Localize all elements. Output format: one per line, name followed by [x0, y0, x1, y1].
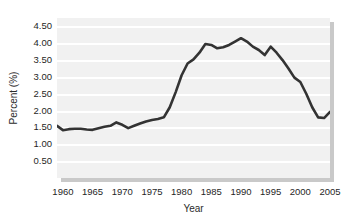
y-axis-tick-label: 2.50 — [18, 89, 52, 99]
chart-screenshot: Percent (%) 0.501.001.502.002.503.003.50… — [0, 0, 353, 223]
y-axis-tick-label: 4.50 — [18, 21, 52, 31]
series-line — [57, 18, 330, 178]
x-axis-tick-labels: 1960196519701975198019851990199520002005 — [57, 186, 330, 198]
y-axis-tick-labels: 0.501.001.502.002.503.003.504.004.50 — [18, 18, 52, 178]
y-axis-tick-label: 3.50 — [18, 55, 52, 65]
y-axis-tick-label: 1.50 — [18, 122, 52, 132]
y-axis-tick-label: 3.00 — [18, 72, 52, 82]
x-axis-tick-label: 2005 — [310, 186, 350, 197]
y-axis-tick-label: 1.00 — [18, 139, 52, 149]
plot-panel — [57, 18, 330, 178]
x-axis-title: Year — [57, 203, 330, 214]
y-axis-tick-label: 2.00 — [18, 106, 52, 116]
y-axis-tick-label: 0.50 — [18, 156, 52, 166]
y-axis-tick-label: 4.00 — [18, 38, 52, 48]
